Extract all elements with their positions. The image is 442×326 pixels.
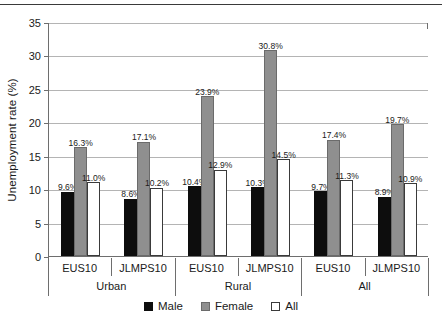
y-tick-label: 5 bbox=[35, 218, 41, 230]
bar-value-label: 14.5% bbox=[272, 151, 296, 160]
bar-value-label: 12.9% bbox=[208, 161, 232, 170]
bar-value-label: 11.0% bbox=[82, 174, 105, 183]
x-axis-group-separator bbox=[301, 258, 302, 296]
x-axis-category-label: EUS10 bbox=[301, 260, 364, 276]
y-tick-label: 15 bbox=[29, 151, 41, 163]
bar-male: 9.7% bbox=[314, 191, 327, 256]
bars-layer: 9.6%16.3%11.0%8.6%17.1%10.2%10.4%23.9%12… bbox=[49, 23, 428, 256]
bar-group: 8.6%17.1%10.2% bbox=[112, 23, 175, 256]
legend-label: All bbox=[285, 300, 298, 312]
bar-value-label: 10.2% bbox=[145, 179, 169, 188]
y-tick-label: 20 bbox=[29, 117, 41, 129]
chart-legend: MaleFemaleAll bbox=[0, 300, 442, 312]
bar-value-label: 17.1% bbox=[132, 133, 156, 142]
bar-group: 9.7%17.4%11.3% bbox=[302, 23, 365, 256]
bar-group: 10.4%23.9%12.9% bbox=[176, 23, 239, 256]
bar-group: 10.3%30.8%14.5% bbox=[239, 23, 302, 256]
x-axis-category-separator bbox=[365, 258, 366, 276]
legend-item-male: Male bbox=[144, 300, 183, 312]
plot-area: 05101520253035 9.6%16.3%11.0%8.6%17.1%10… bbox=[48, 23, 428, 257]
bar-value-label: 19.7% bbox=[385, 116, 409, 125]
bar-female: 17.4% bbox=[327, 140, 340, 256]
bar-all: 11.0% bbox=[87, 182, 100, 256]
x-axis-category-label: JLMPS10 bbox=[238, 260, 301, 276]
bar-value-label: 10.9% bbox=[398, 175, 422, 184]
bar-male: 8.6% bbox=[124, 199, 137, 256]
bar-all: 12.9% bbox=[214, 170, 227, 256]
y-tick-label: 25 bbox=[29, 84, 41, 96]
x-axis-category-separator bbox=[111, 258, 112, 276]
bar-female: 23.9% bbox=[201, 96, 214, 256]
bar-male: 8.9% bbox=[378, 197, 391, 257]
bar-all: 10.2% bbox=[150, 188, 163, 256]
bar-female: 17.1% bbox=[137, 142, 150, 256]
bar-group: 8.9%19.7%10.9% bbox=[366, 23, 429, 256]
bar-value-label: 23.9% bbox=[195, 88, 219, 97]
x-axis: EUS10JLMPS10EUS10JLMPS10EUS10JLMPS10 Urb… bbox=[48, 258, 428, 300]
x-axis-category-label: EUS10 bbox=[175, 260, 238, 276]
bar-group: 9.6%16.3%11.0% bbox=[49, 23, 112, 256]
x-axis-group-separator bbox=[48, 258, 49, 296]
x-axis-category-label: JLMPS10 bbox=[365, 260, 428, 276]
bar-value-label: 30.8% bbox=[259, 42, 283, 51]
x-axis-category-label: EUS10 bbox=[48, 260, 111, 276]
bar-value-label: 17.4% bbox=[322, 131, 346, 140]
bar-male: 10.4% bbox=[188, 186, 201, 256]
y-tick-label: 35 bbox=[29, 17, 41, 29]
y-axis-title: Unemployment rate (%) bbox=[6, 23, 22, 257]
x-axis-group-label: Rural bbox=[175, 278, 302, 294]
bar-male: 10.3% bbox=[251, 187, 264, 256]
x-axis-group-label: All bbox=[301, 278, 428, 294]
y-tick-label: 0 bbox=[35, 251, 41, 263]
bar-male: 9.6% bbox=[61, 192, 74, 256]
x-axis-group-separator bbox=[175, 258, 176, 296]
chart-figure: Unemployment rate (%) 05101520253035 9.6… bbox=[0, 0, 442, 326]
x-axis-category-label: JLMPS10 bbox=[111, 260, 174, 276]
top-divider-rule bbox=[0, 4, 442, 5]
legend-swatch-all bbox=[271, 302, 280, 311]
legend-item-female: Female bbox=[201, 300, 253, 312]
legend-swatch-male bbox=[144, 302, 153, 311]
legend-label: Female bbox=[215, 300, 253, 312]
bar-female: 16.3% bbox=[74, 147, 87, 256]
y-tick-label: 30 bbox=[29, 50, 41, 62]
x-axis-group-row: UrbanRuralAll bbox=[48, 278, 428, 294]
bar-all: 11.3% bbox=[340, 180, 353, 256]
x-axis-group-label: Urban bbox=[48, 278, 175, 294]
x-axis-category-separator bbox=[238, 258, 239, 276]
bar-female: 19.7% bbox=[391, 124, 404, 256]
legend-item-all: All bbox=[271, 300, 298, 312]
legend-label: Male bbox=[158, 300, 183, 312]
legend-swatch-female bbox=[201, 302, 210, 311]
y-tick-label: 10 bbox=[29, 184, 41, 196]
bar-value-label: 16.3% bbox=[69, 139, 93, 148]
x-axis-group-separator bbox=[428, 258, 429, 296]
bar-all: 14.5% bbox=[277, 159, 290, 256]
bar-value-label: 11.3% bbox=[335, 172, 358, 181]
bar-all: 10.9% bbox=[404, 183, 417, 256]
